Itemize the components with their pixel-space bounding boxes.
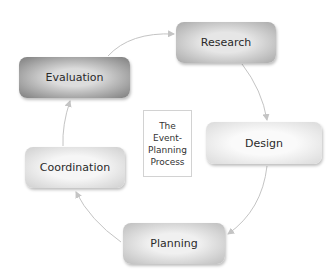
node-label: Design — [245, 137, 283, 150]
diagram-title-box: The Event- Planning Process — [143, 110, 192, 177]
arrow-design-to-planning — [228, 166, 267, 234]
title-line: The — [159, 120, 176, 132]
arrow-evaluation-to-research — [108, 34, 174, 56]
node-planning: Planning — [123, 223, 225, 264]
title-line: Planning — [148, 144, 187, 156]
arrow-research-to-design — [242, 64, 267, 120]
node-label: Research — [201, 36, 251, 49]
node-research: Research — [176, 22, 276, 63]
title-line: Event- — [153, 132, 182, 144]
node-label: Planning — [150, 237, 197, 250]
node-coordination: Coordination — [25, 147, 125, 188]
node-evaluation: Evaluation — [19, 57, 130, 98]
node-design: Design — [206, 122, 322, 164]
node-label: Coordination — [40, 161, 110, 174]
arrow-coordination-to-evaluation — [63, 101, 70, 146]
arrow-planning-to-coordination — [76, 192, 121, 242]
node-label: Evaluation — [45, 71, 103, 84]
title-line: Process — [150, 156, 184, 168]
